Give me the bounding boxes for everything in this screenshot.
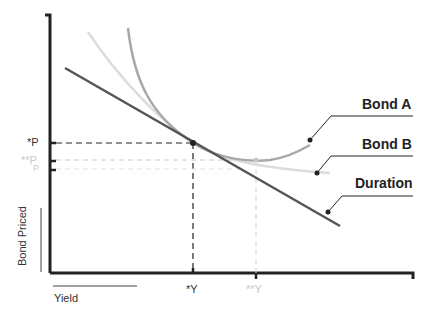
y-axis-title: Bond Priced: [16, 206, 28, 266]
y-tick-label-p3: P: [33, 163, 39, 173]
x-tick-label-y2: **Y: [246, 283, 262, 295]
tangent-point: [190, 140, 196, 146]
x-axis: [50, 273, 413, 279]
guide-lines: [56, 143, 256, 273]
axes: [41, 15, 413, 286]
bond-a-curve: [128, 28, 310, 161]
leader-duration-dot: [326, 210, 331, 215]
legend-duration: Duration: [355, 175, 413, 191]
bond-convexity-diagram: [0, 0, 434, 319]
leader-bond-b-dot: [315, 171, 320, 176]
duration-line: [65, 68, 340, 226]
x-axis-title: Yield: [54, 292, 78, 304]
y-axis: [45, 15, 50, 273]
second-point: [254, 158, 259, 163]
leader-duration: [328, 196, 413, 212]
legend-leaders: [308, 116, 414, 215]
x-tick-label-y1: *Y: [186, 283, 198, 295]
leader-bond-a-dot: [308, 138, 313, 143]
legend-bond-b: Bond B: [362, 136, 412, 152]
legend-bond-a: Bond A: [362, 96, 411, 112]
y-tick-label-p1: *P: [27, 136, 39, 148]
leader-bond-b: [317, 156, 413, 173]
